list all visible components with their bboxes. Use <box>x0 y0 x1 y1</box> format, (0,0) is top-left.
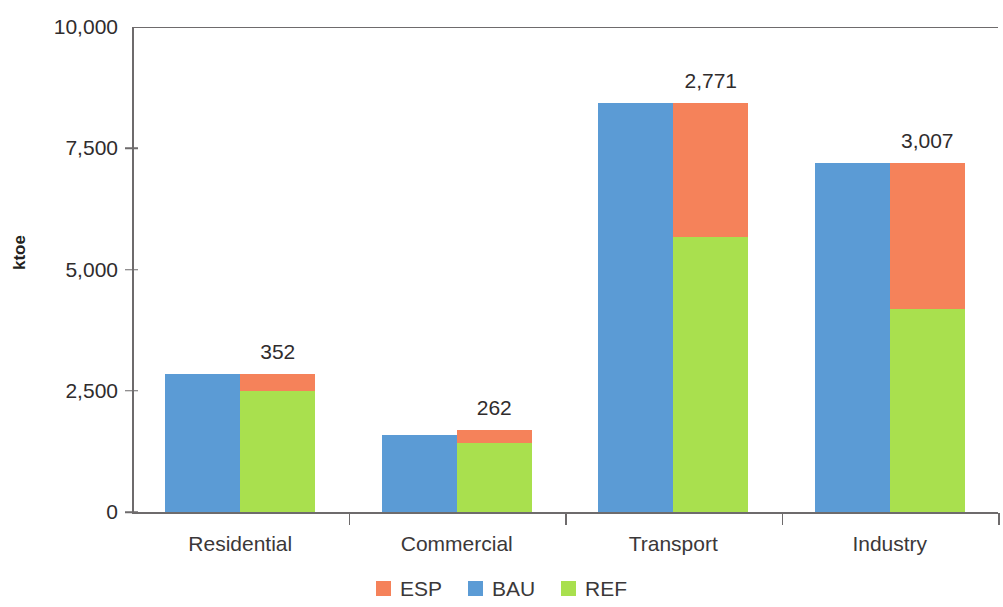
legend-label: REF <box>585 578 627 599</box>
bar-bau <box>165 374 240 512</box>
bar-segment-ref <box>890 309 965 512</box>
plot-area <box>132 27 998 512</box>
bar-group <box>382 27 532 512</box>
x-axis-category-label: Transport <box>629 532 718 556</box>
x-axis-tick-mark <box>349 513 351 525</box>
data-label: 3,007 <box>901 129 954 153</box>
bar-segment-esp <box>240 374 315 391</box>
bar-segment-esp <box>673 103 748 237</box>
data-label: 2,771 <box>684 69 737 93</box>
bar-stacked-ref-esp <box>457 430 532 512</box>
y-axis-tick-mark <box>125 511 138 513</box>
y-axis-tick-label: 2,500 <box>0 379 118 403</box>
y-axis-tick-mark <box>125 148 138 150</box>
y-axis-tick-label: 0 <box>0 500 118 524</box>
bar-segment-esp <box>457 430 532 443</box>
y-axis-tick-label: 7,500 <box>0 136 118 160</box>
y-axis-tick-mark <box>125 390 138 392</box>
bar-segment-esp <box>890 163 965 309</box>
legend-item[interactable]: ESP <box>376 578 442 599</box>
legend-item[interactable]: REF <box>561 578 627 599</box>
legend-swatch-icon <box>468 581 483 596</box>
legend-label: ESP <box>400 578 442 599</box>
bar-bau <box>598 103 673 512</box>
y-axis-tick-label: 10,000 <box>0 15 118 39</box>
y-axis-tick-label: 5,000 <box>0 258 118 282</box>
bar-group <box>598 27 748 512</box>
bar-stacked-ref-esp <box>673 103 748 512</box>
legend: ESPBAUREF <box>0 578 1003 599</box>
x-axis-tick-mark <box>782 513 784 525</box>
bar-group <box>165 27 315 512</box>
data-label: 262 <box>477 396 512 420</box>
legend-swatch-icon <box>561 581 576 596</box>
bar-segment-ref <box>457 443 532 512</box>
bar-stacked-ref-esp <box>240 374 315 512</box>
legend-swatch-icon <box>376 581 391 596</box>
bar-bau <box>382 435 457 512</box>
bar-stacked-ref-esp <box>890 163 965 512</box>
bar-segment-ref <box>673 237 748 512</box>
bar-chart: ktoe 10,0007,5005,0002,5000 ResidentialC… <box>0 0 1003 607</box>
x-axis-category-label: Commercial <box>401 532 513 556</box>
x-axis-category-label: Residential <box>188 532 292 556</box>
bar-bau <box>815 163 890 512</box>
x-axis-tick-mark <box>998 513 1000 525</box>
data-label: 352 <box>260 340 295 364</box>
bar-group <box>815 27 965 512</box>
legend-item[interactable]: BAU <box>468 578 535 599</box>
x-axis-category-label: Industry <box>852 532 927 556</box>
y-axis-tick-mark <box>125 269 138 271</box>
bar-segment-ref <box>240 391 315 512</box>
legend-label: BAU <box>492 578 535 599</box>
x-axis-tick-mark <box>565 513 567 525</box>
y-axis-ticks: 10,0007,5005,0002,5000 <box>0 0 118 607</box>
